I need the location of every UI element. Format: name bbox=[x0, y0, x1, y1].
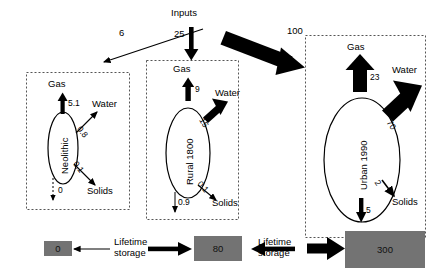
lifetime-storage-caption-right-text: Lifetimestorage bbox=[258, 236, 291, 258]
urban-water-label: Water bbox=[392, 65, 417, 75]
neolithic-storage-box: 0 bbox=[44, 241, 72, 256]
rural-storage-box: 80 bbox=[194, 236, 242, 261]
lifetime-storage-caption-right: Lifetimestorage bbox=[258, 236, 291, 258]
neolithic-gas-value: 5.1 bbox=[68, 98, 80, 108]
neolithic-gas-label: Gas bbox=[48, 79, 65, 89]
rural-gas-label: Gas bbox=[173, 64, 190, 74]
neolithic-water-label: Water bbox=[92, 99, 117, 109]
rural-solids-label: Solids bbox=[212, 198, 238, 208]
input-arrow-urban bbox=[221, 31, 306, 75]
inputs-label: Inputs bbox=[171, 8, 197, 18]
storage-arrow-to-urban-box bbox=[307, 237, 345, 260]
neolithic-gas-arrow bbox=[58, 93, 68, 115]
rural-storage-box-value: 80 bbox=[213, 243, 224, 254]
storage-arrow-to-rural-box-left bbox=[148, 242, 192, 256]
input-arrow-rural bbox=[184, 27, 198, 61]
rural-gas-value: 9 bbox=[195, 84, 200, 94]
rural-water-label: Water bbox=[215, 88, 240, 98]
input-value-neolithic: 6 bbox=[119, 28, 124, 38]
urban-solids-label: Solids bbox=[392, 197, 418, 207]
neolithic-name: Neolithic bbox=[59, 138, 70, 174]
neolithic-solids-label: Solids bbox=[87, 186, 113, 196]
rural-gas-arrow bbox=[182, 78, 194, 102]
urban-name: Urban 1990 bbox=[358, 140, 369, 190]
urban-gas-label: Gas bbox=[347, 42, 364, 52]
lifetime-storage-caption-left: Lifetimestorage bbox=[114, 236, 147, 258]
urban-water-arrow bbox=[382, 81, 422, 122]
input-value-rural: 25 bbox=[174, 29, 185, 39]
urban-gas-value: 23 bbox=[370, 72, 379, 82]
diagram-canvas: Inputs 6 25 100 Gas 5.1 Water 0.8 0.1 So… bbox=[0, 0, 444, 274]
lifetime-storage-caption-left-text: Lifetimestorage bbox=[114, 236, 147, 258]
rural-storage-value: 0.9 bbox=[178, 197, 190, 207]
neolithic-storage-box-value: 0 bbox=[55, 243, 60, 254]
input-value-urban: 100 bbox=[287, 26, 303, 36]
urban-storage-box: 300 bbox=[345, 231, 425, 268]
neolithic-storage-value: 0 bbox=[58, 185, 63, 195]
urban-storage-box-value: 300 bbox=[377, 244, 393, 255]
urban-storage-value: 5 bbox=[366, 205, 371, 215]
rural-name: Rural 1800 bbox=[184, 139, 195, 185]
